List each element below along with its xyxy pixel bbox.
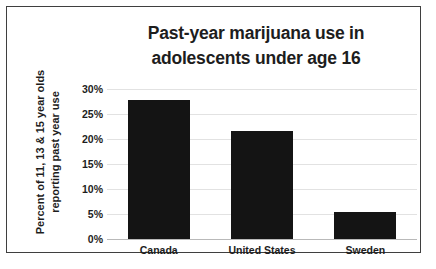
y-axis-title-line-1: Percent of 11, 13 & 15 year olds	[33, 47, 48, 257]
x-axis-category-labels: CanadaUnited StatesSweden	[107, 243, 417, 259]
figure-root: Past-year marijuana use in adolescents u…	[0, 0, 436, 269]
bar-canada	[128, 100, 190, 239]
y-tick-label: 30%	[63, 83, 103, 95]
y-tick-label: 25%	[63, 108, 103, 120]
y-axis-title: Percent of 11, 13 & 15 year olds reporti…	[33, 47, 67, 257]
chart-title-line-2: adolescents under age 16	[93, 46, 419, 71]
plot-area	[107, 89, 417, 239]
bar-sweden	[334, 212, 396, 239]
chart-title: Past-year marijuana use in adolescents u…	[93, 21, 419, 71]
chart-frame: Past-year marijuana use in adolescents u…	[6, 6, 421, 253]
y-tick-label: 15%	[63, 158, 103, 170]
y-axis-tick-labels: 30%25%20%15%10%5%0%	[63, 81, 103, 245]
y-axis-title-line-2: reporting past year use	[48, 47, 63, 257]
x-category-label: Sweden	[305, 243, 425, 257]
y-tick-label: 0%	[63, 233, 103, 245]
x-category-label: United States	[202, 243, 322, 257]
x-category-label: Canada	[99, 243, 219, 257]
y-tick-label: 5%	[63, 208, 103, 220]
figure-caption	[38, 260, 368, 269]
y-tick-label: 10%	[63, 183, 103, 195]
chart-title-line-1: Past-year marijuana use in	[93, 21, 419, 46]
bars-layer	[107, 89, 417, 239]
y-tick-label: 20%	[63, 133, 103, 145]
gridline-0%	[107, 239, 417, 240]
bar-united-states	[231, 131, 293, 239]
